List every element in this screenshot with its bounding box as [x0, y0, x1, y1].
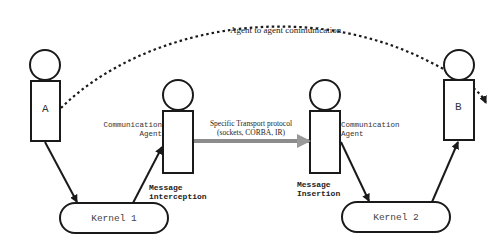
arrow-kernel2-to-b	[432, 142, 458, 202]
comm-agent-right-label-2: Agent	[341, 130, 364, 138]
interception-label-1: Message	[149, 183, 183, 192]
top-arc-label: Agent to agent communication	[230, 25, 342, 35]
transport-label-2: (sockets, CORBA, IR)	[217, 128, 285, 137]
agent-a-label: A	[42, 103, 49, 115]
insertion-label-1: Message	[297, 180, 331, 189]
interception-label-2: interception	[149, 192, 207, 201]
transport-label-1: Specific Transport protocol	[210, 119, 292, 128]
agent-a	[30, 50, 60, 141]
comm-agent-left-label-1: Communication	[103, 121, 162, 129]
agent-communication-diagram: Agent to agent communication A B Communi…	[0, 0, 499, 252]
kernel-2-label: Kernel 2	[373, 212, 419, 223]
arrow-comm-agent-to-kernel2	[341, 142, 369, 201]
arrow-a-to-kernel1	[45, 142, 77, 202]
agent-to-agent-arc	[61, 27, 486, 108]
agent-b-label: B	[455, 101, 462, 113]
comm-agent-right-label-1: Communication	[341, 121, 400, 129]
comm-agent-left-label-2: Agent	[139, 130, 162, 138]
insertion-label-2: Insertion	[297, 189, 340, 198]
comm-agent-right	[310, 80, 340, 173]
agent-b	[444, 50, 474, 140]
kernel-1-label: Kernel 1	[91, 213, 137, 224]
comm-agent-left	[163, 80, 193, 173]
